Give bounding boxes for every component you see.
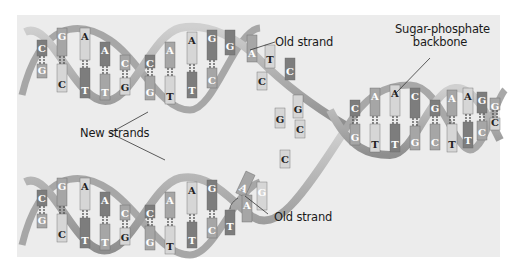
label-sugar-phosphate-backbone: Sugar-phosphate backbone [395, 23, 485, 49]
base-letter: A [390, 88, 399, 99]
base-letter: C [431, 137, 439, 148]
base-letter: C [121, 208, 129, 219]
base-letter: C [258, 76, 266, 87]
base-letter: T [101, 237, 109, 248]
base-letter: C [411, 91, 419, 102]
base-letter: A [370, 91, 379, 102]
base-letter: T [266, 54, 274, 65]
base-letter: G [294, 104, 303, 115]
base-letter: G [411, 137, 420, 148]
base-letter: T [464, 135, 472, 146]
base-letter: C [491, 117, 499, 128]
base-letter: T [166, 91, 174, 102]
base-letter: G [121, 232, 130, 243]
base-letter: G [121, 82, 130, 93]
base-letter: G [38, 65, 47, 76]
base-letter: T [226, 221, 234, 232]
base-letter: A [242, 200, 251, 211]
base-letter: G [258, 187, 267, 198]
base-letter: C [208, 75, 216, 86]
base-letter: C [478, 127, 486, 138]
base-letter: T [188, 235, 196, 246]
base-letter: G [226, 41, 235, 52]
base-letter: T [371, 139, 379, 150]
base-letter: A [100, 195, 109, 206]
base-letter: G [431, 103, 440, 114]
base-letter: T [391, 139, 399, 150]
base-letter: G [491, 101, 500, 112]
base-letter: G [478, 95, 487, 106]
base-letter: C [38, 193, 46, 204]
base-letter: C [281, 154, 289, 165]
base-letter: A [447, 93, 456, 104]
base-letter: C [351, 103, 359, 114]
base-letter: G [146, 237, 155, 248]
base-letter: A [187, 185, 196, 196]
base-letter: G [208, 33, 217, 44]
base-letter: C [58, 229, 66, 240]
base-letter: G [58, 31, 67, 42]
base-letter: G [351, 132, 360, 143]
base-letter: C [286, 66, 294, 77]
base-letter: T [188, 85, 196, 96]
base-letter: C [208, 225, 216, 236]
base-letter: C [146, 208, 154, 219]
bottom-daughter-helix [22, 130, 345, 255]
base-letter: C [121, 58, 129, 69]
base-letter: T [81, 235, 89, 246]
base-letter: G [58, 181, 67, 192]
base-letter: T [448, 139, 456, 150]
label-old-strand-bottom: Old strand [274, 211, 332, 224]
label-old-strand-top: Old strand [275, 36, 333, 49]
base-letter: G [38, 215, 47, 226]
base-letter: A [463, 91, 472, 102]
base-letter: G [208, 183, 217, 194]
base-letter: G [146, 87, 155, 98]
base-letter: G [276, 114, 285, 125]
base-letter: A [80, 181, 89, 192]
base-letter: A [187, 35, 196, 46]
base-letter: A [165, 195, 174, 206]
base-letter: T [81, 85, 89, 96]
base-letter: A [165, 45, 174, 56]
label-new-strands: New strands [80, 127, 149, 140]
base-letter: A [100, 45, 109, 56]
base-letter: T [166, 241, 174, 252]
base-letter: C [38, 43, 46, 54]
base-letter: A [80, 31, 89, 42]
base-letter: C [58, 79, 66, 90]
base-letter: C [296, 124, 304, 135]
base-letter: C [146, 58, 154, 69]
label-sugar-phosphate-line2: backbone [395, 36, 485, 49]
base-letter: T [101, 87, 109, 98]
